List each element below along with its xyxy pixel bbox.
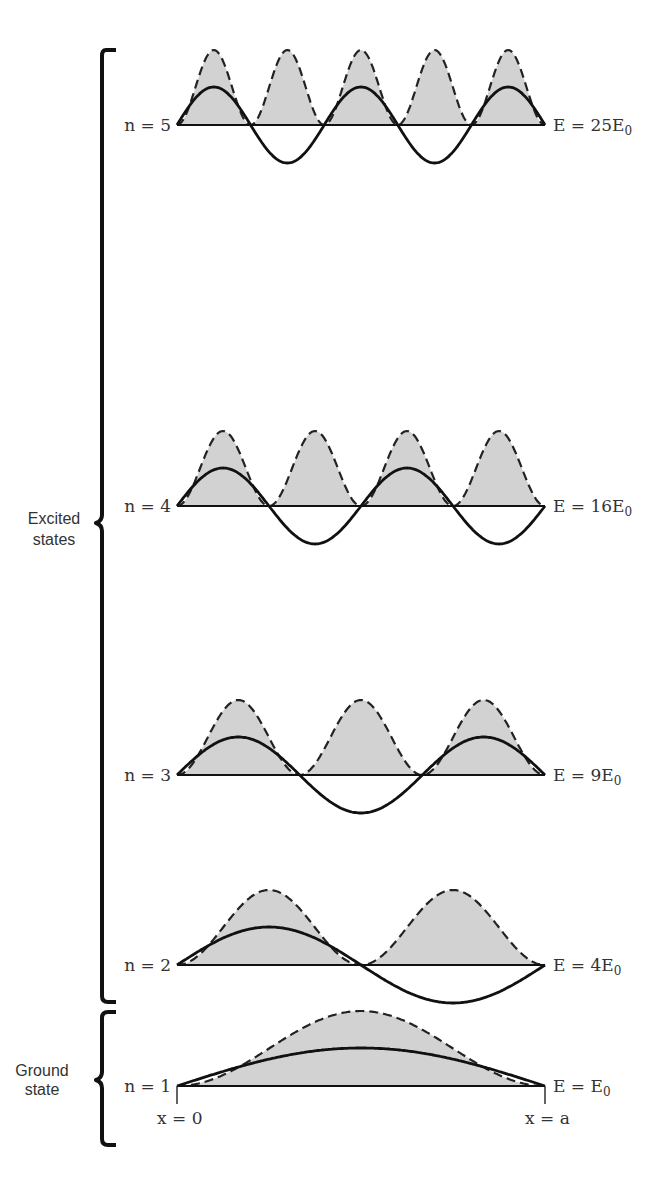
x-left-label: x = 0: [157, 1108, 202, 1128]
level-n4: n = 4E = 16E0: [124, 431, 632, 544]
quantum-number-label: n = 3: [124, 765, 171, 785]
energy-label: E = E0: [553, 1076, 611, 1099]
energy-label: E = 4E0: [553, 955, 621, 978]
energy-levels: n = 5E = 25E0n = 4E = 16E0n = 3E = 9E0n …: [124, 50, 632, 1099]
level-n2: n = 2E = 4E0: [124, 890, 621, 1003]
quantum-number-label: n = 5: [124, 115, 171, 135]
excited-states-label-line1: Excited: [28, 510, 80, 527]
level-n3: n = 3E = 9E0: [124, 700, 621, 813]
ground-state-brace: [96, 1012, 116, 1145]
ground-state-label-line2: state: [25, 1081, 60, 1098]
ground-state-label-line1: Ground: [15, 1062, 68, 1079]
excited-states-label-line2: states: [33, 531, 76, 548]
quantum-number-label: n = 4: [124, 496, 171, 516]
probability-density-fill: [177, 890, 545, 965]
infinite-well-diagram: Excited states Ground state n = 5E = 25E…: [0, 0, 664, 1184]
quantum-number-label: n = 2: [124, 955, 171, 975]
quantum-number-label: n = 1: [124, 1076, 171, 1096]
energy-label: E = 25E0: [553, 115, 632, 138]
energy-label: E = 16E0: [553, 496, 632, 519]
x-right-label: x = a: [525, 1108, 570, 1128]
level-n5: n = 5E = 25E0: [124, 50, 632, 163]
excited-states-brace: [96, 50, 116, 1002]
energy-label: E = 9E0: [553, 765, 621, 788]
level-n1: n = 1E = E0: [124, 1011, 610, 1099]
